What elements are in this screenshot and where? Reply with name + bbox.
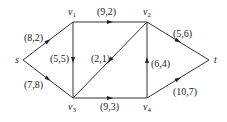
node-label-v1: v1 [68, 6, 76, 19]
edge-label: (5,5) [50, 53, 69, 65]
node-label-t: t [214, 54, 217, 65]
edge-label: (6,4) [151, 58, 170, 70]
edge-label: (8,2) [24, 32, 43, 44]
edge-label: (10,7) [173, 86, 197, 98]
edge-label: (2,1) [91, 53, 110, 65]
node-label-v4: v4 [143, 101, 151, 114]
arrow-icon [145, 57, 149, 63]
node-label-v3: v3 [68, 101, 76, 114]
arrow-icon [174, 77, 180, 82]
edge-label: (7,8) [24, 79, 43, 91]
arrow-icon [107, 20, 113, 24]
arrow-icon [71, 57, 75, 63]
node-label-s: s [15, 54, 19, 65]
flow-network-diagram: (8,2)(7,8)(9,2)(5,5)(2,1)(5,6)(9,3)(6,4)… [0, 0, 227, 122]
edge-label: (9,2) [97, 6, 116, 18]
edge-label: (5,6) [173, 28, 192, 40]
arrow-icon [107, 96, 113, 100]
node-label-v2: v2 [143, 6, 151, 19]
edge-label: (9,3) [100, 101, 119, 113]
